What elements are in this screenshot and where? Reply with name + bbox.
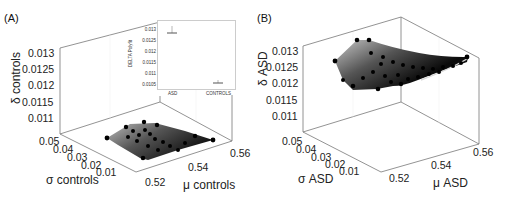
panel-a-surface xyxy=(107,123,213,160)
panel-a: (A) 0.013 0.0125 0.012 0.0115 0.011 δ co… xyxy=(0,0,253,198)
y-tick: 0.01 xyxy=(339,165,359,177)
z-tick: 0.0115 xyxy=(22,96,53,108)
z-axis-label: δ controls xyxy=(9,52,23,104)
inset-y-tick: 0.012 xyxy=(145,49,156,54)
inset-y-tick: 0.0115 xyxy=(143,60,156,65)
inset-x-tick: ASD xyxy=(168,91,177,96)
x-tick: 0.52 xyxy=(389,172,409,184)
y-tick: 0.01 xyxy=(96,166,116,178)
inset-box-markers xyxy=(158,21,235,89)
x-axis-label: μ controls xyxy=(183,178,235,192)
z-tick: 0.0125 xyxy=(22,63,54,75)
z-tick: 0.013 xyxy=(28,47,54,59)
inset-y-tick: 0.0125 xyxy=(142,38,156,43)
z-tick: 0.012 xyxy=(28,79,54,91)
x-tick: 0.54 xyxy=(188,161,208,173)
x-tick: 0.56 xyxy=(230,147,250,159)
x-axis-label: μ ASD xyxy=(433,176,468,190)
inset-y-tick: 0.013 xyxy=(145,27,156,32)
panel-a-label: (A) xyxy=(4,12,19,24)
inset-y-label: DELTA Polyfit xyxy=(128,40,133,67)
x-tick: 0.52 xyxy=(145,176,165,188)
inset-x-tick: CONTROLS xyxy=(206,91,231,96)
panel-b-axes-box xyxy=(303,17,479,172)
z-tick: 0.0115 xyxy=(266,94,297,106)
z-tick: 0.0125 xyxy=(266,61,298,73)
y-axis-label: σ ASD xyxy=(298,172,333,186)
z-tick: 0.011 xyxy=(28,112,54,124)
panel-b-label: (B) xyxy=(257,12,272,24)
z-axis-label: δ ASD xyxy=(256,51,270,86)
z-tick: 0.012 xyxy=(272,77,298,89)
x-tick: 0.54 xyxy=(431,159,451,171)
inset-y-tick: 0.011 xyxy=(145,71,156,76)
x-tick: 0.56 xyxy=(473,146,493,158)
y-axis-label: σ controls xyxy=(46,173,99,187)
panel-b: (B) 0.013 0.0125 0.012 0.0115 0.011 δ AS… xyxy=(253,0,506,198)
z-tick: 0.013 xyxy=(272,45,298,57)
inset-y-tick: 0.0105 xyxy=(142,82,156,87)
inset-boxplot: DELTA Polyfit 0.013 0.0125 0.012 0.0115 … xyxy=(157,20,236,90)
z-tick: 0.011 xyxy=(272,110,298,122)
